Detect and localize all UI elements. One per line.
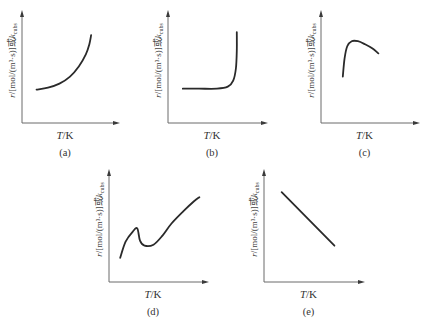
x-axis-arrow-icon [202, 280, 209, 284]
y-axis-label: r/[mol/(m³·s)]或kcubs [93, 181, 105, 256]
panel-caption: (e) [303, 306, 315, 318]
chart-panel-a: T/K(a)r/[mol/(m³·s)]或kcubs [6, 10, 120, 159]
y-axis-label: r/[mol/(m³·s)]或kcubs [152, 22, 164, 97]
data-curve-c [343, 41, 379, 77]
x-axis-arrow-icon [113, 121, 120, 125]
x-axis-arrow-icon [358, 280, 365, 284]
panel-caption: (a) [59, 147, 71, 159]
y-axis-arrow-icon [166, 10, 170, 17]
y-axis-arrow-icon [262, 169, 266, 176]
x-axis-label: T/K [300, 288, 317, 300]
y-axis-label: r/[mol/(m³·s)]或kcubs [6, 22, 18, 97]
x-axis-arrow-icon [261, 121, 268, 125]
data-curve-e [282, 192, 335, 246]
x-axis-label: T/K [203, 129, 220, 141]
x-axis-label: T/K [56, 129, 73, 141]
chart-panel-d: T/K(d)r/[mol/(m³·s)]或kcubs [93, 169, 209, 318]
figure: T/K(a)r/[mol/(m³·s)]或kcubsT/K(b)r/[mol/(… [0, 0, 428, 323]
chart-panel-c: T/K(c)r/[mol/(m³·s)]或kcubs [305, 10, 420, 159]
x-axis-label: T/K [144, 288, 161, 300]
x-axis-label: T/K [356, 129, 373, 141]
chart-panel-b: T/K(b)r/[mol/(m³·s)]或kcubs [152, 10, 268, 159]
panel-caption: (d) [147, 306, 160, 318]
data-curve-b [183, 32, 237, 89]
chart-panel-e: T/K(e)r/[mol/(m³·s)]或kcubs [248, 169, 365, 318]
y-axis-label: r/[mol/(m³·s)]或kcubs [248, 181, 260, 256]
data-curve-a [37, 35, 92, 90]
y-axis-arrow-icon [20, 10, 24, 17]
y-axis-arrow-icon [107, 169, 111, 176]
panel-caption: (c) [359, 147, 371, 159]
panel-caption: (b) [206, 147, 219, 159]
y-axis-label: r/[mol/(m³·s)]或kcubs [305, 22, 317, 97]
y-axis-arrow-icon [319, 10, 323, 17]
data-curve-d [120, 197, 199, 258]
x-axis-arrow-icon [413, 121, 420, 125]
